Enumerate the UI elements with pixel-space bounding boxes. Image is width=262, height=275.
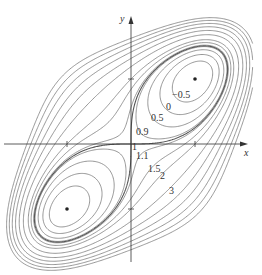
contour-label: 1.1 (136, 150, 149, 161)
contour-label: 0.5 (151, 112, 164, 123)
contour-label: 1.5 (148, 163, 161, 174)
contour-label: 0 (166, 101, 171, 112)
contour-label: 0.9 (136, 126, 149, 137)
contour-plot: x y −0.5 0 0.5 0.9 1 1.1 1.5 2 3 (0, 0, 262, 275)
contour-label: −0.5 (172, 89, 190, 100)
y-axis-label: y (119, 13, 125, 24)
minimum-point-lower (65, 207, 69, 211)
minimum-point-upper (193, 77, 197, 81)
contour-label: 2 (160, 170, 165, 181)
x-axis-label: x (243, 147, 249, 158)
y-axis-arrow-icon (129, 16, 134, 24)
x-axis-arrow-icon (240, 142, 248, 147)
contour-label: 3 (169, 185, 174, 196)
